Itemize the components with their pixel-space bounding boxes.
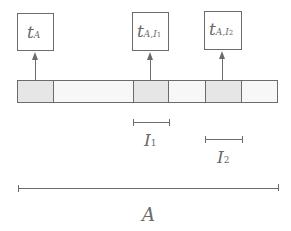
interval-line-A xyxy=(18,188,279,189)
label-t-A-I1: tA,I1 xyxy=(137,21,161,41)
tick xyxy=(278,184,279,191)
tick xyxy=(205,136,206,143)
tick xyxy=(169,119,170,126)
bar-segment-shaded-2 xyxy=(133,80,168,103)
label-t-A: tA xyxy=(27,22,40,42)
box-t-A-I1: tA,I1 xyxy=(132,12,169,51)
arrow-t-A-I1 xyxy=(150,58,151,80)
arrowhead-icon xyxy=(219,51,225,59)
label-I1: I1 xyxy=(144,130,156,150)
arrow-t-A-I2 xyxy=(222,57,223,80)
bar-segment-light-3 xyxy=(241,80,278,103)
bar-segment-shaded-3 xyxy=(205,80,241,103)
label-t-A-I2: tA,I2 xyxy=(209,19,233,39)
label-I2: I2 xyxy=(217,147,229,167)
bar-segment-shaded-1 xyxy=(17,80,53,103)
arrowhead-icon xyxy=(32,52,38,60)
bar-segment-light-2 xyxy=(168,80,205,103)
arrowhead-icon xyxy=(147,52,153,60)
arrow-t-A xyxy=(35,58,36,80)
tick xyxy=(133,119,134,126)
box-t-A-I2: tA,I2 xyxy=(204,11,242,50)
tick xyxy=(18,185,19,192)
interval-line-I2 xyxy=(205,139,242,140)
label-A: A xyxy=(142,204,155,225)
interval-line-I1 xyxy=(133,122,169,123)
bar-segment-light-1 xyxy=(53,80,133,103)
tick xyxy=(242,136,243,143)
box-t-A: tA xyxy=(17,13,54,51)
